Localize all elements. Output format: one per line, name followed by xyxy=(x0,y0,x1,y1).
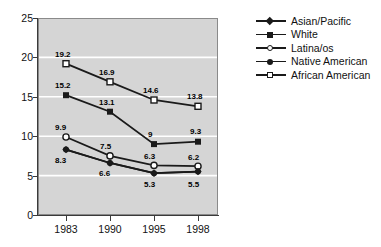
y-tick-label-25: 25 xyxy=(3,13,33,24)
x-tick-mark-1990 xyxy=(110,216,111,221)
line-chart: 25 20 15 10 5 0 1983 1990 1995 1998 xyxy=(0,0,381,247)
value-label-african-american-1990: 16.9 xyxy=(99,69,115,77)
value-label-african-american-1983: 19.2 xyxy=(55,51,71,59)
chart-legend: Asian/Pacific White Latina/os Native Ame… xyxy=(255,14,379,82)
legend-label-white: White xyxy=(287,29,318,40)
x-tick-mark-1998 xyxy=(198,216,199,221)
x-tick-label-1995: 1995 xyxy=(132,224,176,235)
value-label-white-1998: 9.3 xyxy=(190,128,201,136)
series-line-latinaos xyxy=(63,134,201,169)
value-label-white-1995: 9 xyxy=(148,131,152,139)
legend-item-asian-pacific[interactable]: Asian/Pacific xyxy=(255,14,379,28)
value-label-asian-pacific-1995: 5.3 xyxy=(144,181,155,189)
value-label-latinaos-1983: 9.9 xyxy=(55,124,66,132)
legend-label-african-american: African American xyxy=(287,70,370,81)
legend-item-native-american[interactable]: Native American xyxy=(255,55,379,69)
legend-label-latinaos: Latina/os xyxy=(287,43,334,54)
x-tick-mark-1995 xyxy=(154,216,155,221)
legend-marker-filled-square-icon xyxy=(255,28,287,41)
legend-item-african-american[interactable]: African American xyxy=(255,68,379,82)
x-tick-mark-1983 xyxy=(66,216,67,221)
legend-marker-open-square-icon xyxy=(255,68,287,81)
y-tick-label-10: 10 xyxy=(3,131,33,142)
value-label-latinaos-1990: 7.5 xyxy=(100,143,111,151)
legend-label-native-american: Native American xyxy=(287,56,367,67)
value-label-latinaos-1995: 6.3 xyxy=(144,153,155,161)
y-tick-label-15: 15 xyxy=(3,92,33,103)
series-line-white xyxy=(63,92,201,147)
x-tick-label-1983: 1983 xyxy=(44,224,88,235)
value-label-white-1990: 13.1 xyxy=(99,99,115,107)
value-label-latinaos-1998: 6.2 xyxy=(188,154,199,162)
legend-item-latinaos[interactable]: Latina/os xyxy=(255,41,379,55)
legend-marker-filled-circle-icon xyxy=(255,55,287,68)
y-axis-labels: 25 20 15 10 5 0 xyxy=(0,0,33,247)
value-label-white-1983: 15.2 xyxy=(55,82,71,90)
value-label-african-american-1998: 13.8 xyxy=(187,93,203,101)
x-tick-label-1990: 1990 xyxy=(88,224,132,235)
value-label-asian-pacific-1998: 5.5 xyxy=(188,181,199,189)
legend-marker-open-circle-icon xyxy=(255,41,287,54)
value-label-asian-pacific-1983: 8.3 xyxy=(55,157,66,165)
x-axis-line xyxy=(37,215,219,216)
x-tick-label-1998: 1998 xyxy=(176,224,220,235)
value-label-african-american-1995: 14.6 xyxy=(143,87,159,95)
y-tick-label-5: 5 xyxy=(3,171,33,182)
legend-marker-filled-diamond-icon xyxy=(255,14,287,27)
legend-item-white[interactable]: White xyxy=(255,28,379,42)
legend-label-asian-pacific: Asian/Pacific xyxy=(287,16,351,27)
y-tick-label-0: 0 xyxy=(3,210,33,221)
y-tick-label-20: 20 xyxy=(3,52,33,63)
plot-area: 19.2 16.9 14.6 13.8 15.2 13.1 9 9.3 9.9 … xyxy=(38,18,218,215)
value-label-asian-pacific-1990: 6.6 xyxy=(99,170,110,178)
